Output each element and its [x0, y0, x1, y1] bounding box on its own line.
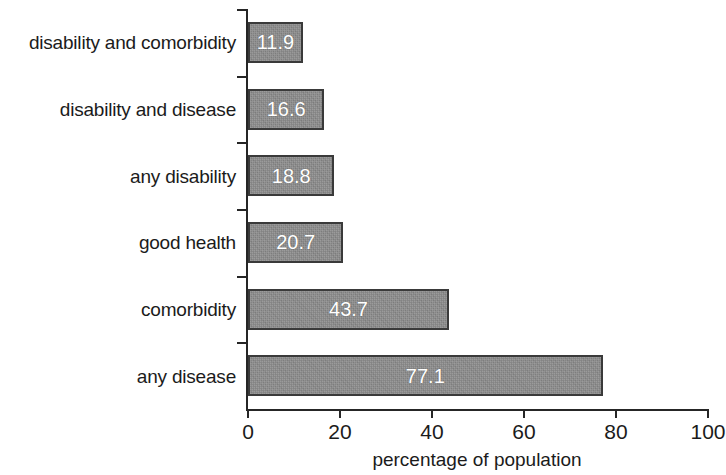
bar-value-label: 18.8	[250, 166, 332, 186]
bar-value-label: 20.7	[250, 232, 341, 252]
x-axis-tick-label: 100	[690, 421, 725, 442]
y-axis-tick	[237, 142, 247, 144]
bar-value-label: 16.6	[250, 99, 322, 119]
y-axis-category-label: disability and disease	[60, 100, 236, 119]
plot-area: 020406080100 11.916.618.820.743.777.1	[248, 9, 708, 409]
bar: 16.6	[248, 89, 324, 130]
bar-value-label: 77.1	[250, 366, 601, 386]
y-axis-tick	[237, 209, 247, 211]
y-axis-category-labels: disability and comorbiditydisability and…	[0, 0, 236, 410]
x-axis-tick	[431, 409, 433, 418]
y-axis-tick	[237, 9, 247, 11]
y-axis-tick	[237, 342, 247, 344]
bar: 77.1	[248, 355, 603, 396]
y-axis-category-label: good health	[139, 233, 236, 252]
x-axis-tick-label: 20	[328, 421, 351, 442]
x-axis-tick	[339, 409, 341, 418]
x-axis-tick-label: 40	[420, 421, 443, 442]
bar: 18.8	[248, 155, 334, 196]
bar-value-label: 43.7	[250, 299, 447, 319]
x-axis-tick	[523, 409, 525, 418]
x-axis-tick-label: 60	[512, 421, 535, 442]
x-axis-title: percentage of population	[0, 450, 724, 469]
bar: 43.7	[248, 289, 449, 330]
x-axis-tick	[615, 409, 617, 418]
x-axis-tick	[707, 409, 709, 418]
x-axis-tick	[247, 409, 249, 418]
y-axis-category-label: any disease	[137, 367, 236, 386]
y-axis-category-label: any disability	[130, 167, 236, 186]
x-axis-title-text: percentage of population	[372, 450, 581, 469]
y-axis-tick	[237, 276, 247, 278]
y-axis-tick	[237, 76, 247, 78]
x-axis-tick-label: 80	[604, 421, 627, 442]
bar: 11.9	[248, 22, 303, 63]
x-axis-line	[246, 409, 707, 411]
bar: 20.7	[248, 222, 343, 263]
x-axis-tick-label: 0	[242, 421, 254, 442]
y-axis-category-label: disability and comorbidity	[29, 33, 236, 52]
bar-value-label: 11.9	[250, 32, 301, 52]
y-axis-category-label: comorbidity	[141, 300, 236, 319]
